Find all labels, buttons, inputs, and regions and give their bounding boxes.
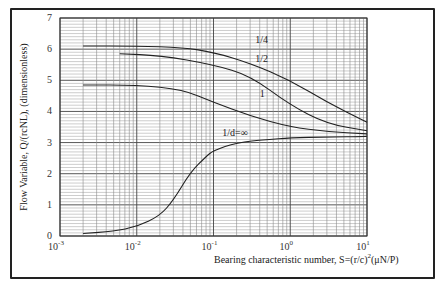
curve-label: 1/4 xyxy=(255,34,268,45)
y-tick-label: 0 xyxy=(47,230,52,241)
curve-1 xyxy=(120,54,367,131)
x-tick-label: 10-2 xyxy=(125,239,141,252)
axis-ticks: 0123456710-310-210-1100101 xyxy=(47,12,370,252)
grid xyxy=(60,18,367,236)
y-tick-label: 3 xyxy=(47,137,52,148)
y-tick-label: 5 xyxy=(47,74,52,85)
x-axis-label: Bearing characteristic number, S=(r/c)2(… xyxy=(214,252,399,266)
curve-0 xyxy=(83,46,367,122)
flow-variable-chart: 1/41/211/d=∞ 0123456710-310-210-1100101 … xyxy=(0,0,443,290)
x-tick-label: 10-1 xyxy=(202,239,218,252)
curve-label: 1 xyxy=(260,88,265,99)
y-axis-label: Flow Variable, Q/(rcNL), (dimensionless) xyxy=(18,43,30,210)
curve-label: 1/d=∞ xyxy=(222,127,248,138)
curve-label: 1/2 xyxy=(255,53,268,64)
y-tick-label: 4 xyxy=(47,105,52,116)
x-tick-label: 101 xyxy=(356,239,370,252)
curve-3 xyxy=(83,136,367,233)
x-tick-label: 10-3 xyxy=(48,239,64,252)
x-tick-label: 100 xyxy=(280,239,294,252)
y-tick-label: 2 xyxy=(47,168,52,179)
y-tick-label: 7 xyxy=(47,12,52,23)
y-tick-label: 1 xyxy=(47,199,52,210)
y-tick-label: 6 xyxy=(47,43,52,54)
curves: 1/41/211/d=∞ xyxy=(83,34,367,234)
